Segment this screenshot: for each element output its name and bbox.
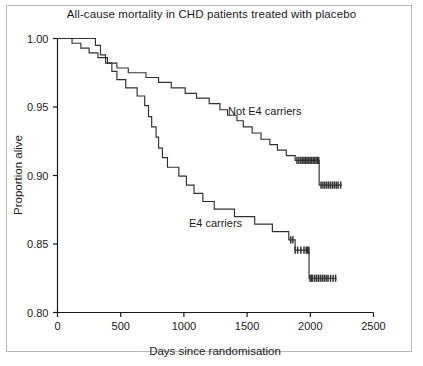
chart-figure: All-cause mortality in CHD patients trea…: [0, 0, 423, 366]
x-tick-label: 2000: [298, 320, 322, 332]
x-tick-label: 2500: [361, 320, 385, 332]
x-tick-label: 500: [112, 320, 130, 332]
kaplan-meier-plot: 05001000150020002500 0.800.850.900.951.0…: [0, 0, 423, 366]
x-tick-label: 1500: [235, 320, 259, 332]
y-tick-labels: 0.800.850.900.951.00: [27, 33, 48, 319]
y-tick-label: 0.85: [27, 238, 48, 250]
x-tick-labels: 05001000150020002500: [54, 320, 385, 332]
y-tick-label: 0.95: [27, 101, 48, 113]
x-tick-label: 1000: [172, 320, 196, 332]
series-annotations: Not E4 carriersE4 carriers: [189, 105, 302, 229]
y-tick-label: 0.80: [27, 307, 48, 319]
censoring-marks: [291, 157, 341, 282]
series-label-e4: E4 carriers: [189, 217, 243, 229]
x-tick-label: 0: [54, 320, 60, 332]
y-axis-title: Proportion alive: [12, 135, 24, 215]
plot-axes: [58, 39, 374, 313]
x-axis-title: Days since randomisation: [149, 345, 281, 357]
y-tick-label: 1.00: [27, 33, 48, 45]
y-tick-label: 0.90: [27, 170, 48, 182]
series-label-not-e4: Not E4 carriers: [228, 105, 302, 117]
